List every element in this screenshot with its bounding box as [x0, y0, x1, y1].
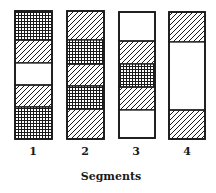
segment-3	[119, 12, 155, 138]
band-diagonal	[67, 109, 104, 139]
segment-label-4: 4	[177, 145, 197, 158]
band-diagonal	[119, 87, 155, 110]
band-diagonal	[169, 12, 205, 42]
band-blank	[119, 12, 155, 41]
segment-label-1: 1	[23, 145, 43, 158]
segment-2	[67, 11, 104, 139]
band-blank	[119, 110, 155, 138]
segment-label-2: 2	[75, 145, 95, 158]
band-diagonal	[67, 11, 104, 40]
band-blank	[15, 63, 52, 85]
band-blank	[169, 42, 205, 110]
segments-diagram	[0, 0, 216, 193]
segment-1	[15, 11, 52, 139]
band-crosshatch	[67, 86, 104, 109]
segments-group	[15, 11, 205, 139]
band-crosshatch	[15, 107, 52, 139]
band-diagonal	[15, 85, 52, 107]
band-diagonal	[67, 64, 104, 86]
band-crosshatch	[67, 40, 104, 64]
figure-title: Segments	[0, 170, 216, 183]
band-diagonal	[119, 41, 155, 64]
segment-4	[169, 12, 205, 139]
band-crosshatch	[119, 64, 155, 87]
segment-label-3: 3	[126, 145, 146, 158]
band-diagonal	[15, 40, 52, 63]
band-diagonal	[169, 110, 205, 139]
band-crosshatch	[15, 11, 52, 40]
